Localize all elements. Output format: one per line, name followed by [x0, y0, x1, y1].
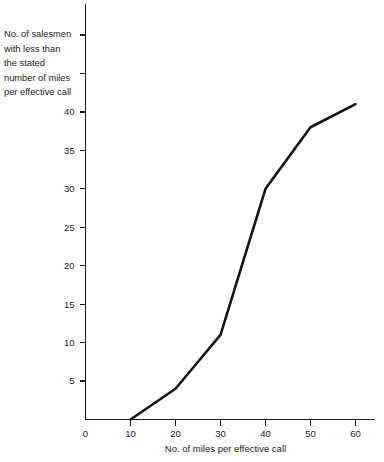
x-tick-label-40: 40 [260, 428, 271, 439]
x-axis-title: No. of miles per effective call [165, 443, 286, 454]
y-tick-label-25: 25 [64, 222, 75, 233]
y-tick-label-group: 510152025303540 [64, 106, 75, 386]
x-tick-label-group: 0102030405060 [83, 428, 361, 439]
y-tick-label-10: 10 [64, 337, 75, 348]
x-tick-label-20: 20 [170, 428, 181, 439]
y-tick-label-40: 40 [64, 106, 75, 117]
y-tick-label-5: 5 [69, 375, 74, 386]
x-tick-label-30: 30 [215, 428, 226, 439]
y-tick-label-15: 15 [64, 299, 75, 310]
y-tick-group [80, 35, 86, 381]
axis-group [85, 4, 375, 420]
x-tick-group [131, 420, 356, 426]
y-tick-label-20: 20 [64, 260, 75, 271]
x-tick-label-50: 50 [305, 428, 316, 439]
chart-canvas: 510152025303540 0102030405060 No. of mil… [0, 0, 384, 462]
y-tick-label-35: 35 [64, 145, 75, 156]
x-tick-label-0: 0 [83, 428, 88, 439]
cumulative-frequency-chart: No. of salesmen with less than the state… [0, 0, 384, 462]
x-tick-label-10: 10 [125, 428, 136, 439]
cumulative-frequency-line [131, 104, 356, 419]
y-tick-label-30: 30 [64, 183, 75, 194]
x-tick-label-60: 60 [350, 428, 361, 439]
